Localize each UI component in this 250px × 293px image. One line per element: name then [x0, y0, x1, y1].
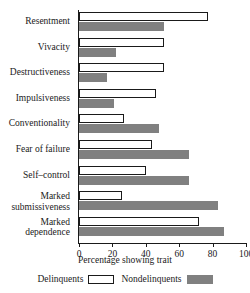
x-axis-line — [78, 243, 246, 244]
legend-swatch-nondelinquents-icon — [187, 275, 213, 284]
chart-legend: Delinquents Nondelinquents — [0, 274, 250, 284]
bar-delinquents — [79, 140, 152, 149]
x-tick — [246, 243, 247, 247]
bar-delinquents — [79, 12, 208, 21]
x-axis-title: Percentage showing trait — [0, 255, 250, 265]
category-label: Fear of failure — [0, 144, 70, 155]
legend-item-nondelinquents: Nondelinquents — [121, 274, 212, 284]
bar-group: Destructiveness — [79, 63, 246, 83]
x-tick — [213, 243, 214, 247]
bar-group: Self–control — [79, 166, 246, 186]
category-label: Impulsiveness — [0, 93, 70, 104]
category-label: Marked dependence — [0, 217, 70, 238]
x-tick — [146, 243, 147, 247]
bar-nondelinquents — [79, 99, 114, 108]
bar-delinquents — [79, 89, 156, 98]
bar-delinquents — [79, 191, 122, 200]
bar-delinquents — [79, 166, 146, 175]
category-label: Conventionality — [0, 118, 70, 129]
bar-nondelinquents — [79, 73, 107, 82]
category-label: Destructiveness — [0, 67, 70, 78]
bar-chart: 020406080100 ResentmentVivacityDestructi… — [0, 0, 250, 293]
bar-group: Impulsiveness — [79, 89, 246, 109]
bar-nondelinquents — [79, 150, 189, 159]
bar-nondelinquents — [79, 48, 116, 57]
bar-nondelinquents — [79, 227, 224, 236]
bar-nondelinquents — [79, 201, 218, 210]
bar-nondelinquents — [79, 176, 189, 185]
bar-group: Fear of failure — [79, 140, 246, 160]
legend-swatch-delinquents-icon — [88, 275, 114, 284]
plot-area: 020406080100 ResentmentVivacityDestructi… — [78, 10, 246, 243]
category-label: Vivacity — [0, 42, 70, 53]
category-label: Resentment — [0, 16, 70, 27]
bar-group: Marked dependence — [79, 217, 246, 237]
category-label: Self–control — [0, 170, 70, 181]
legend-label-nondelinquents: Nondelinquents — [121, 274, 181, 284]
x-tick — [179, 243, 180, 247]
legend-item-delinquents: Delinquents — [37, 274, 114, 284]
x-tick — [79, 243, 80, 247]
bar-delinquents — [79, 217, 199, 226]
x-tick — [112, 243, 113, 247]
bar-group: Marked submissiveness — [79, 191, 246, 211]
bar-group: Resentment — [79, 12, 246, 32]
bar-delinquents — [79, 38, 164, 47]
bar-delinquents — [79, 114, 124, 123]
bar-group: Conventionality — [79, 114, 246, 134]
category-label: Marked submissiveness — [0, 191, 70, 212]
bar-delinquents — [79, 63, 164, 72]
bar-group: Vivacity — [79, 38, 246, 58]
legend-label-delinquents: Delinquents — [37, 274, 83, 284]
bar-nondelinquents — [79, 22, 164, 31]
bar-nondelinquents — [79, 124, 159, 133]
